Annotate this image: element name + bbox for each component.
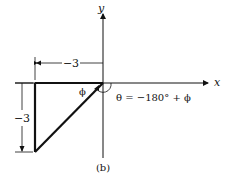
phi-label: ϕ (79, 86, 86, 97)
diagram-canvas: −3 −3 ϕ θ = −180° + ϕ x y (b) (0, 0, 225, 175)
horizontal-dimension-label: −3 (63, 57, 79, 70)
vertical-dimension-label: −3 (14, 112, 30, 125)
figure-caption: (b) (96, 162, 110, 173)
y-axis-label: y (97, 2, 105, 15)
right-triangle (35, 83, 103, 152)
x-axis-label: x (214, 76, 221, 89)
theta-equation: θ = −180° + ϕ (116, 92, 191, 103)
